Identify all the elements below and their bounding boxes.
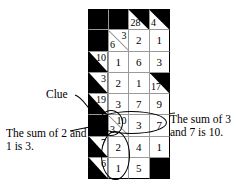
cell-value: 3 — [150, 56, 170, 67]
grid-cell-clue[interactable]: 17 — [150, 73, 171, 94]
annotation-left-note: The sum of 2 and 1 is 3. — [6, 127, 90, 153]
grid-cell-split-clue[interactable]: 6 3 — [109, 30, 130, 51]
cell-value: 1 — [150, 35, 170, 46]
cell-value: 2 — [129, 35, 149, 46]
down-clue-value: 17 — [151, 82, 161, 92]
grid-cell-black — [88, 9, 109, 30]
cell-value: 1 — [150, 141, 170, 152]
cell-value: 4 — [129, 141, 149, 152]
cell-value: 2 — [109, 77, 129, 88]
cell-value: 6 — [129, 56, 149, 67]
cell-value: 1 — [129, 77, 149, 88]
grid-cell-value[interactable]: 9 — [150, 94, 171, 115]
grid-cell-clue[interactable]: 10 — [88, 52, 109, 73]
grid-cell-value[interactable]: 2 — [109, 73, 130, 94]
grid-cell-value[interactable]: 4 — [129, 137, 150, 158]
grid-cell-value[interactable]: 1 — [109, 52, 130, 73]
grid-cell-value[interactable]: 1 — [150, 137, 171, 158]
down-clue-value: 28 — [131, 18, 141, 28]
cell-value: 1 — [109, 56, 129, 67]
down-clue-value: 4 — [151, 18, 156, 28]
grid-cell-value[interactable]: 5 — [129, 158, 150, 179]
across-clue-value: 3 — [101, 74, 106, 84]
grid-cell-value[interactable]: 6 — [129, 52, 150, 73]
annotation-clue-label: Clue — [46, 88, 68, 101]
grid-cell-black — [88, 30, 109, 51]
grid-cell-black — [109, 9, 130, 30]
cell-value: 7 — [129, 99, 149, 110]
annotation-right-note: The sum of 3 and 7 is 10. — [170, 113, 246, 139]
across-clue-value: 19 — [96, 95, 106, 105]
grid-row: 6 3 2 1 — [88, 30, 170, 51]
cell-value: 3 — [109, 99, 129, 110]
grid-cell-value[interactable]: 1 — [150, 30, 171, 51]
grid-cell-value[interactable]: 3 — [150, 52, 171, 73]
grid-cell-clue[interactable]: 3 — [88, 73, 109, 94]
grid-cell-clue[interactable]: 4 — [150, 9, 171, 30]
highlight-ellipse-down — [101, 131, 130, 180]
cell-value: 9 — [150, 99, 170, 110]
grid-row: 10 1 6 3 — [88, 52, 170, 73]
across-clue-value: 10 — [96, 53, 106, 63]
highlight-ellipse-across — [96, 111, 167, 134]
across-clue-value: 3 — [122, 31, 127, 41]
figure-canvas: 28 4 6 3 2 1 10 — [0, 0, 247, 188]
down-clue-value: 6 — [110, 40, 115, 50]
cell-value: 5 — [129, 162, 149, 173]
grid-row: 28 4 — [88, 9, 170, 30]
grid-cell-black — [150, 158, 171, 179]
grid-cell-value[interactable]: 1 — [129, 73, 150, 94]
grid-cell-value[interactable]: 2 — [129, 30, 150, 51]
grid-row: 3 2 1 17 — [88, 73, 170, 94]
grid-cell-clue[interactable]: 28 — [129, 9, 150, 30]
